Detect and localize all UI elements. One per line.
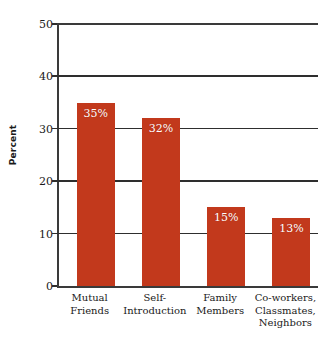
plot-area: 01020304050 35%32%15%13% [57, 24, 318, 288]
x-axis-label-line: Co-workers, [247, 292, 324, 305]
bar[interactable]: 13% [272, 218, 310, 286]
y-tick-label-50: 50 [31, 18, 53, 31]
bar[interactable]: 35% [77, 103, 115, 286]
bar-value-label: 32% [142, 122, 180, 135]
y-axis-title: Percent [8, 115, 18, 175]
bar-value-label: 15% [207, 211, 245, 224]
bar-chart: Percent 01020304050 35%32%15%13% MutualF… [0, 0, 335, 350]
x-axis-label-line: Neighbors [247, 317, 324, 330]
bar[interactable]: 15% [207, 207, 245, 286]
bar-series: 35%32%15%13% [57, 24, 318, 288]
y-tick-label-40: 40 [31, 70, 53, 83]
bar[interactable]: 32% [142, 118, 180, 286]
y-tick-label-20: 20 [31, 175, 53, 188]
bar-value-label: 35% [77, 107, 115, 120]
y-tick-label-10: 10 [31, 227, 53, 240]
bar-value-label: 13% [272, 222, 310, 235]
x-axis-category-labels: MutualFriendsSelf-IntroductionFamilyMemb… [57, 292, 318, 348]
x-axis-label-line: Classmates, [247, 305, 324, 318]
y-tick-label-0: 0 [31, 280, 53, 293]
x-axis-label: Co-workers,Classmates,Neighbors [247, 292, 324, 330]
y-tick-label-30: 30 [31, 122, 53, 135]
